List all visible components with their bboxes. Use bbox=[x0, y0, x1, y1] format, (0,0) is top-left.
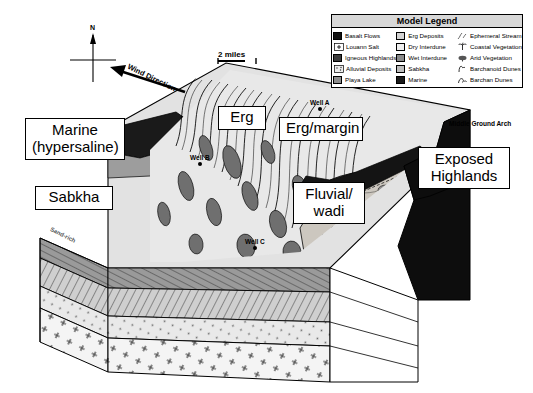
model-legend: Model Legend Basalt Flows Louann Salt Ig… bbox=[331, 14, 523, 88]
ephemeral-stream-icon bbox=[457, 31, 468, 40]
callout-erg-margin-line1: Erg/margin bbox=[286, 119, 359, 136]
legend-label-ephemeral-stream: Ephemeral Stream bbox=[470, 32, 522, 39]
legend-item-alluvial-deposits[interactable]: Alluvial Deposits bbox=[333, 63, 396, 74]
barchan-dune-icon bbox=[457, 75, 468, 84]
legend-label-arid-vegetation: Arid Vegetation bbox=[470, 54, 512, 61]
swatch-louann-salt bbox=[333, 42, 344, 51]
barchanoid-dune-icon bbox=[457, 64, 468, 73]
callout-marine[interactable]: Marine (hypersaline) bbox=[25, 118, 125, 160]
legend-item-erg-deposits[interactable]: Erg Deposits bbox=[396, 30, 457, 41]
legend-item-playa-lake[interactable]: Playa Lake bbox=[333, 74, 396, 85]
legend-item-coastal-vegetation[interactable]: Coastal Vegetation bbox=[457, 41, 521, 52]
well-a-label: Well A bbox=[310, 99, 330, 106]
legend-column-1: Basalt Flows Louann Salt Igneous Highlan… bbox=[333, 30, 396, 88]
legend-item-wet-interdune[interactable]: Wet Interdune bbox=[396, 52, 457, 63]
well-marker-c[interactable]: Well C bbox=[245, 238, 265, 250]
legend-label-basalt-flows: Basalt Flows bbox=[345, 32, 380, 39]
callout-erg[interactable]: Erg bbox=[218, 106, 266, 130]
legend-label-alluvial-deposits: Alluvial Deposits bbox=[346, 65, 391, 72]
legend-label-dry-interdune: Dry Interdune bbox=[408, 43, 446, 50]
legend-item-barchan-dunes[interactable]: Barchan Dunes bbox=[457, 74, 521, 85]
swatch-dry-interdune bbox=[396, 43, 405, 51]
swatch-basalt-flows bbox=[333, 32, 342, 40]
legend-label-sabkha: Sabkha bbox=[408, 65, 429, 72]
legend-item-sabkha[interactable]: Sabkha bbox=[396, 63, 457, 74]
callout-marine-line1: Marine bbox=[52, 121, 98, 138]
swatch-wet-interdune bbox=[396, 54, 405, 62]
callout-marine-line2: (hypersaline) bbox=[32, 138, 118, 155]
swatch-igneous-highlands bbox=[333, 54, 342, 62]
legend-label-louann-salt: Louann Salt bbox=[346, 43, 379, 50]
scale-bar-label: 2 miles bbox=[218, 50, 245, 62]
well-b-dot bbox=[198, 162, 202, 166]
callout-fluvial-line1: Fluvial/ bbox=[305, 185, 353, 202]
legend-item-louann-salt[interactable]: Louann Salt bbox=[333, 41, 396, 52]
swatch-alluvial-deposits bbox=[333, 64, 344, 73]
legend-label-barchanoid-dunes: Barchanoid Dunes bbox=[470, 65, 521, 72]
well-marker-a[interactable]: Well A bbox=[310, 99, 330, 111]
legend-column-2: Erg Deposits Dry Interdune Wet Interdune… bbox=[396, 30, 457, 88]
legend-label-erg-deposits: Erg Deposits bbox=[408, 32, 443, 39]
callout-exposed-line2: Highlands bbox=[425, 167, 503, 184]
swatch-marine bbox=[396, 76, 405, 84]
legend-item-dry-interdune[interactable]: Dry Interdune bbox=[396, 41, 457, 52]
legend-label-playa-lake: Playa Lake bbox=[345, 76, 376, 83]
figure-root: N Wind Direction 2 miles Sand-rich Middl… bbox=[0, 0, 533, 393]
callout-erg-margin[interactable]: Erg/margin bbox=[279, 117, 363, 141]
compass-north-label: N bbox=[90, 24, 95, 31]
well-a-dot bbox=[318, 107, 322, 111]
swatch-erg-deposits bbox=[396, 32, 405, 40]
well-c-label: Well C bbox=[245, 238, 265, 245]
callout-sabkha-line1: Sabkha bbox=[49, 188, 100, 205]
legend-label-wet-interdune: Wet Interdune bbox=[408, 54, 447, 61]
map-top-surface bbox=[108, 63, 470, 300]
swatch-sabkha bbox=[396, 65, 405, 73]
legend-item-igneous-highlands[interactable]: Igneous Highlands bbox=[333, 52, 396, 63]
shrub-icon bbox=[457, 53, 468, 62]
legend-item-ephemeral-stream[interactable]: Ephemeral Stream bbox=[457, 30, 521, 41]
legend-column-3: Ephemeral Stream Coastal Vegetation Arid… bbox=[457, 30, 521, 88]
callout-exposed-line1: Exposed bbox=[435, 150, 493, 167]
legend-label-coastal-vegetation: Coastal Vegetation bbox=[470, 43, 522, 50]
legend-item-arid-vegetation[interactable]: Arid Vegetation bbox=[457, 52, 521, 63]
callout-sabkha[interactable]: Sabkha bbox=[35, 186, 113, 210]
legend-item-basalt-flows[interactable]: Basalt Flows bbox=[333, 30, 396, 41]
legend-label-igneous-highlands: Igneous Highlands bbox=[345, 54, 396, 61]
callout-exposed-highlands[interactable]: Exposed Highlands bbox=[418, 147, 510, 189]
well-b-label: Well B bbox=[190, 154, 210, 161]
legend-title: Model Legend bbox=[332, 15, 522, 28]
callout-fluvial-line2: wadi bbox=[300, 202, 358, 219]
legend-item-barchanoid-dunes[interactable]: Barchanoid Dunes bbox=[457, 63, 521, 74]
legend-body: Basalt Flows Louann Salt Igneous Highlan… bbox=[332, 28, 522, 88]
well-c-dot bbox=[253, 246, 257, 250]
legend-label-marine: Marine bbox=[408, 76, 427, 83]
callout-fluvial-wadi[interactable]: Fluvial/ wadi bbox=[293, 182, 365, 224]
legend-label-barchan-dunes: Barchan Dunes bbox=[470, 76, 513, 83]
legend-item-marine[interactable]: Marine bbox=[396, 74, 457, 85]
compass-rose bbox=[70, 33, 116, 82]
callout-erg-line1: Erg bbox=[230, 108, 253, 125]
swatch-playa-lake bbox=[333, 76, 342, 84]
well-marker-b[interactable]: Well B bbox=[190, 154, 210, 166]
middle-ground-arch-label: Middle Ground Arch bbox=[449, 120, 511, 127]
palm-icon bbox=[457, 42, 468, 51]
